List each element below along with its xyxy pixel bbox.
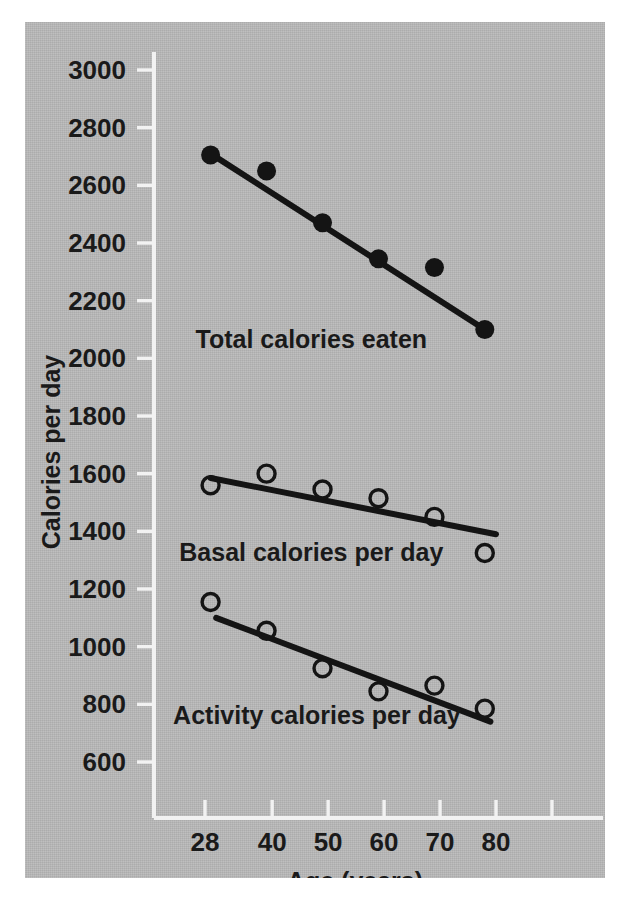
y-tick-label: 800 — [83, 689, 126, 719]
data-point — [369, 249, 388, 268]
series-fit-lines — [211, 154, 496, 722]
y-axis-tick-labels: 6008001000120014001600180020002200240026… — [68, 55, 126, 777]
data-point — [258, 465, 275, 482]
y-axis-title: Calories per day — [37, 355, 65, 550]
data-point — [313, 213, 332, 232]
y-axis-ticks — [137, 70, 152, 762]
y-tick-label: 1200 — [68, 574, 126, 604]
x-tick-label: 40 — [258, 827, 287, 857]
data-point — [476, 700, 493, 717]
x-axis-title: Age (years) — [287, 867, 423, 878]
x-tick-label: 70 — [426, 827, 455, 857]
data-point — [201, 146, 220, 165]
y-tick-label: 600 — [83, 747, 126, 777]
series-annotations: Total calories eatenBasal calories per d… — [173, 325, 461, 729]
y-tick-label: 2400 — [68, 228, 126, 258]
series-annotation: Activity calories per day — [173, 701, 461, 729]
y-tick-label: 2200 — [68, 286, 126, 316]
x-axis-tick-labels: 284050607080 — [191, 827, 511, 857]
x-axis: 284050607080 Age (years) — [154, 800, 605, 878]
data-point — [476, 544, 493, 561]
y-axis: 6008001000120014001600180020002200240026… — [37, 52, 154, 818]
fit-line — [211, 154, 485, 330]
y-tick-label: 2600 — [68, 170, 126, 200]
data-point — [314, 660, 331, 677]
data-point — [370, 683, 387, 700]
series-annotation: Basal calories per day — [179, 538, 443, 566]
data-point — [475, 320, 494, 339]
figure-root: 6008001000120014001600180020002200240026… — [0, 0, 629, 902]
x-tick-label: 60 — [370, 827, 399, 857]
x-tick-label: 50 — [314, 827, 343, 857]
data-point — [425, 258, 444, 277]
y-tick-label: 2000 — [68, 343, 126, 373]
data-point — [426, 677, 443, 694]
x-axis-ticks — [205, 800, 605, 816]
fit-line — [211, 478, 496, 534]
y-tick-label: 3000 — [68, 55, 126, 85]
y-tick-label: 1000 — [68, 632, 126, 662]
x-tick-label: 80 — [482, 827, 511, 857]
y-tick-label: 1600 — [68, 459, 126, 489]
scatter-chart: 6008001000120014001600180020002200240026… — [25, 22, 605, 878]
data-point — [314, 481, 331, 498]
data-point — [202, 593, 219, 610]
data-point — [257, 161, 276, 180]
data-point — [370, 490, 387, 507]
y-tick-label: 2800 — [68, 113, 126, 143]
y-tick-label: 1800 — [68, 401, 126, 431]
series-annotation: Total calories eaten — [196, 325, 428, 353]
x-tick-label: 28 — [191, 827, 220, 857]
y-tick-label: 1400 — [68, 516, 126, 546]
chart-panel: 6008001000120014001600180020002200240026… — [25, 22, 605, 878]
